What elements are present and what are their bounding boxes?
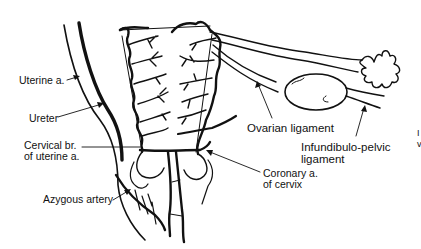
label-ovarian-ligament: Ovarian ligament [247, 122, 334, 134]
uterus-inner-left [122, 36, 142, 150]
descending-vessel-2 [176, 152, 184, 242]
ovarian-ligament-lower [212, 52, 278, 92]
label-ureter: Ureter [29, 113, 58, 124]
ureter-vessel [79, 23, 122, 160]
uterine-vasculature-diagram: Uterine a. Ureter Cervical br. of uterin… [0, 0, 421, 249]
label-edge-fragment-1: I [417, 128, 420, 139]
ovary [285, 74, 347, 110]
infundibulo-pelvic-ligament-upper [346, 88, 384, 96]
label-cervical-branch-line2: of uterine a. [24, 151, 79, 162]
leader-infundibulo [356, 108, 364, 136]
label-azygous-artery: Azygous artery [43, 194, 113, 205]
leader-coronary [210, 152, 260, 172]
arrowhead-ureter [97, 102, 104, 108]
descending-vessel-1 [168, 152, 171, 236]
infundibulo-pelvic-ligament-lower [346, 96, 380, 108]
azygous-branches [135, 190, 156, 224]
ovary-marks [292, 78, 328, 102]
label-infundibulo-pelvic-line2: ligament [301, 153, 344, 165]
arrowhead-coronary [206, 150, 213, 156]
arrowhead-infundibulo [361, 105, 367, 112]
arrowhead-uterine [73, 75, 80, 80]
fimbriae [360, 51, 400, 88]
fallopian-tube [210, 32, 362, 60]
label-coronary-line2: of cervix [263, 179, 302, 190]
label-uterine-artery: Uterine a. [19, 75, 65, 86]
anatomy-drawing [0, 0, 421, 249]
azygous-artery-vessel [116, 175, 165, 230]
cervix-left [137, 152, 164, 178]
cervical-branch-vessel [140, 142, 210, 151]
label-infundibulo-pelvic-line1: Infundibulo-pelvic [301, 141, 391, 153]
ovarian-ligament-upper [213, 45, 276, 82]
cervix-right [184, 154, 207, 179]
label-edge-fragment-2: v [417, 139, 421, 150]
uterus-inner-right [196, 34, 212, 152]
cervix-lobe-left [131, 162, 149, 188]
fallopian-tube-lower [212, 40, 358, 72]
uterine-artery-vessel [64, 25, 145, 240]
